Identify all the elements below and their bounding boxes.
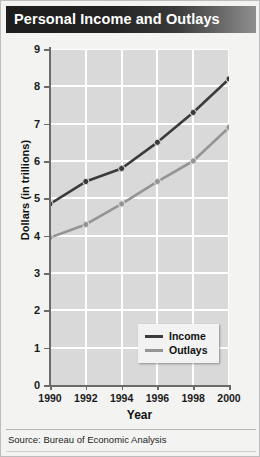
- x-axis-tick: [50, 385, 52, 390]
- y-axis-tick: [44, 49, 50, 51]
- y-axis-tick-label: 2: [10, 305, 40, 316]
- x-axis-line: [49, 385, 230, 387]
- x-axis-tick: [229, 385, 231, 390]
- y-axis-tick: [44, 310, 50, 312]
- bottom-divider: [6, 451, 256, 452]
- y-axis-tick-label: 9: [10, 44, 40, 55]
- data-point-income: [226, 76, 229, 82]
- x-axis-tick: [193, 385, 195, 390]
- chart-plot-container: 0123456789 199019921994199619982000 Doll…: [1, 34, 259, 424]
- legend-swatch-icon: [145, 349, 163, 352]
- data-point-outlays: [226, 124, 229, 130]
- legend-swatch-icon: [145, 335, 163, 338]
- legend-item-label: Income: [169, 330, 206, 342]
- y-axis-tick-label: 8: [10, 81, 40, 92]
- y-axis-tick-label: 0: [10, 380, 40, 391]
- source-note: Source: Bureau of Economic Analysis: [8, 434, 166, 445]
- x-axis-tick-label: 1992: [66, 392, 106, 404]
- series-line-income: [50, 79, 229, 204]
- data-point-outlays: [83, 221, 89, 227]
- data-point-outlays: [119, 201, 125, 207]
- data-point-outlays: [190, 158, 196, 164]
- y-axis-tick: [44, 236, 50, 238]
- data-point-income: [154, 139, 160, 145]
- x-axis-tick: [86, 385, 88, 390]
- y-axis-tick: [44, 86, 50, 88]
- legend-item: Income: [145, 329, 213, 343]
- x-axis-title: Year: [50, 408, 229, 422]
- x-axis-tick-label: 1996: [137, 392, 177, 404]
- y-axis-tick: [44, 348, 50, 350]
- chart-legend: IncomeOutlays: [138, 324, 219, 363]
- data-point-income: [190, 109, 196, 115]
- data-point-income: [83, 178, 89, 184]
- y-axis-tick-label: 3: [10, 268, 40, 279]
- x-axis-tick-label: 1998: [173, 392, 213, 404]
- x-axis-tick-label: 1990: [30, 392, 70, 404]
- x-axis-tick: [157, 385, 159, 390]
- footer-divider: [6, 429, 256, 430]
- y-axis-tick: [44, 124, 50, 126]
- y-axis-line: [49, 47, 51, 387]
- x-axis-tick-label: 2000: [209, 392, 249, 404]
- x-axis-tick: [122, 385, 124, 390]
- page-title: Personal Income and Outlays: [14, 11, 220, 27]
- y-axis-tick: [44, 198, 50, 200]
- y-axis-tick: [44, 273, 50, 275]
- series-line-outlays: [50, 127, 229, 237]
- chart-title-bar: Personal Income and Outlays: [6, 6, 256, 33]
- data-point-outlays: [154, 178, 160, 184]
- y-axis-title: Dollars (in trillions): [19, 120, 31, 260]
- data-point-income: [119, 165, 125, 171]
- legend-item: Outlays: [145, 343, 213, 357]
- legend-item-label: Outlays: [169, 344, 208, 356]
- x-axis-tick-label: 1994: [102, 392, 142, 404]
- y-axis-tick-label: 1: [10, 343, 40, 354]
- chart-figure: Personal Income and Outlays 0123456789 1…: [0, 0, 260, 457]
- y-axis-tick: [44, 161, 50, 163]
